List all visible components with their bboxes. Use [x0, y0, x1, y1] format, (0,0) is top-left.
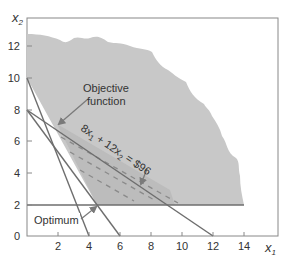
y-axis-label: x2 [11, 10, 24, 27]
objective-label: Objective [83, 82, 129, 94]
x-tick-label: 4 [86, 240, 92, 252]
x-tick-label: 10 [176, 240, 188, 252]
lp-chart: 2 4 6 8 10 12 14 0 2 4 6 8 10 12 x1 x2 O… [0, 0, 294, 264]
y-tick-label: 2 [14, 199, 20, 211]
y-tick-label: 4 [14, 167, 20, 179]
y-tick-label: 0 [14, 230, 20, 242]
x-tick-label: 6 [117, 240, 123, 252]
optimum-label: Optimum [34, 214, 79, 226]
x-tick-label: 14 [238, 240, 250, 252]
y-tick-label: 6 [14, 135, 20, 147]
x-tick-label: 2 [55, 240, 61, 252]
y-tick-label: 10 [8, 72, 20, 84]
x-tick-label: 8 [148, 240, 154, 252]
y-tick-label: 12 [8, 40, 20, 52]
x-axis-label: x1 [264, 240, 276, 257]
x-tick-label: 12 [207, 240, 219, 252]
objective-label: function [87, 95, 126, 107]
y-tick-label: 8 [14, 104, 20, 116]
